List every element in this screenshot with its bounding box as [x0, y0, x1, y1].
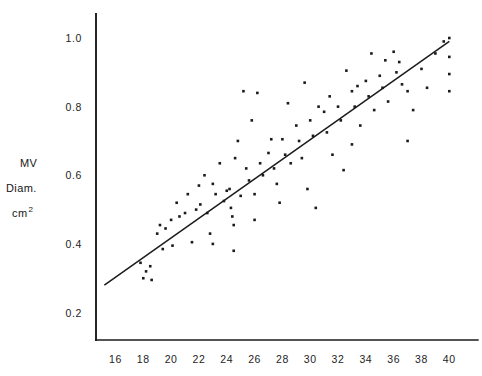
data-point — [273, 167, 276, 170]
data-point — [203, 174, 206, 177]
data-point — [259, 162, 262, 165]
data-point — [323, 111, 326, 114]
data-point — [156, 232, 159, 235]
data-point — [256, 92, 259, 95]
data-point — [250, 119, 253, 122]
data-point — [161, 248, 164, 251]
y-axis-label-line3: cm2 — [6, 206, 82, 219]
data-point — [195, 208, 198, 211]
data-point — [331, 153, 334, 156]
data-point — [159, 224, 162, 227]
data-point — [392, 50, 395, 53]
data-point — [145, 270, 148, 273]
data-point — [214, 193, 217, 196]
scatter-plot-figure: MV Diam. cm2 0.20.40.60.81.0 16182022242… — [0, 0, 482, 376]
data-point — [178, 215, 181, 218]
data-point — [342, 169, 345, 172]
data-point — [239, 195, 242, 198]
data-point — [289, 162, 292, 165]
data-point — [242, 90, 245, 93]
x-tick-label: 24 — [220, 353, 233, 365]
data-point — [398, 61, 401, 64]
data-point — [218, 162, 221, 165]
data-point — [142, 277, 145, 280]
data-point — [378, 74, 381, 77]
data-point — [420, 68, 423, 71]
data-point — [317, 105, 320, 108]
data-point — [448, 37, 451, 40]
y-axis-label-line2: Diam. — [6, 183, 82, 194]
y-axis-label-line1: MV — [6, 158, 82, 169]
data-point — [209, 232, 212, 235]
data-point — [198, 184, 201, 187]
data-point — [278, 201, 281, 204]
data-point — [199, 203, 202, 206]
data-point — [373, 109, 376, 112]
data-point — [212, 243, 215, 246]
data-point — [225, 189, 228, 192]
data-point — [253, 219, 256, 222]
data-point — [164, 227, 167, 230]
data-point — [337, 105, 340, 108]
data-point — [314, 207, 317, 210]
data-point — [287, 102, 290, 105]
x-tick-label: 36 — [387, 353, 400, 365]
data-point — [426, 86, 429, 89]
data-point — [276, 183, 279, 186]
data-point — [351, 143, 354, 146]
data-point — [351, 90, 354, 93]
data-point — [281, 138, 284, 141]
data-point — [184, 212, 187, 215]
data-point — [401, 83, 404, 86]
data-point — [170, 219, 173, 222]
axis-lines — [96, 14, 478, 340]
data-point — [309, 119, 312, 122]
data-point — [230, 207, 233, 210]
data-point — [387, 100, 390, 103]
y-axis-label-unit: cm — [12, 207, 27, 219]
data-point — [448, 56, 451, 59]
x-tick-label: 18 — [137, 353, 150, 365]
data-point — [232, 249, 235, 252]
data-point — [448, 73, 451, 76]
data-point — [448, 90, 451, 93]
data-point — [295, 124, 298, 127]
data-point — [406, 140, 409, 143]
data-point — [406, 90, 409, 93]
x-tick-label: 20 — [165, 353, 178, 365]
data-point — [171, 244, 174, 247]
x-tick-label: 26 — [248, 353, 261, 365]
y-tick-label: 1.0 — [66, 32, 82, 44]
x-tick-label: 30 — [304, 353, 317, 365]
x-tick-label: 34 — [359, 353, 372, 365]
data-point — [234, 157, 237, 160]
data-point — [248, 179, 251, 182]
data-point — [232, 224, 235, 227]
data-point — [412, 109, 415, 112]
data-point — [270, 138, 273, 141]
data-point — [326, 131, 329, 134]
data-point — [253, 193, 256, 196]
fit-line-segment — [104, 41, 449, 285]
data-point — [228, 188, 231, 191]
data-point — [231, 215, 234, 218]
y-tick-label: 0.8 — [66, 101, 82, 113]
data-point — [245, 167, 248, 170]
data-point — [442, 40, 445, 43]
data-point — [284, 153, 287, 156]
x-tick-label-group: 16182022242628303234363840 — [109, 353, 456, 365]
data-point — [306, 188, 309, 191]
data-point — [149, 265, 152, 268]
data-point — [301, 157, 304, 160]
data-point — [298, 140, 301, 143]
data-point — [150, 279, 153, 282]
data-point — [328, 95, 331, 98]
x-tick-label: 40 — [443, 353, 456, 365]
x-tick-label: 16 — [109, 353, 122, 365]
x-tick-label: 38 — [415, 353, 428, 365]
data-point — [384, 59, 387, 62]
data-point — [356, 85, 359, 88]
data-point — [237, 140, 240, 143]
x-tick-label: 32 — [332, 353, 345, 365]
data-point — [365, 80, 368, 83]
